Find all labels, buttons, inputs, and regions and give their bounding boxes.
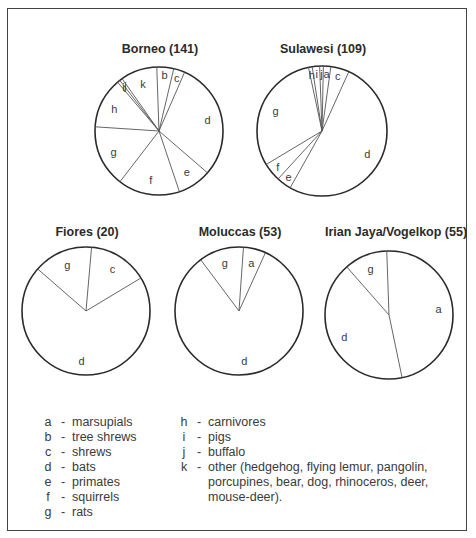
legend-item: i-pigs	[178, 430, 448, 445]
legend-left: a-marsupials b-tree shrews c-shrews d-ba…	[42, 415, 192, 520]
slice-label-e: e	[184, 166, 190, 178]
slice-label-k: k	[140, 78, 146, 90]
legend-key: a	[42, 415, 54, 430]
legend-label: tree shrews	[72, 430, 137, 445]
slice-label-d: d	[341, 331, 347, 343]
legend-item: g-rats	[42, 505, 192, 520]
pie-title: Moluccas (53)	[199, 225, 282, 239]
pie-title: Sulawesi (109)	[280, 42, 366, 56]
legend-right: h-carnivores i-pigs j-buffalo k-other (h…	[178, 415, 448, 505]
pie-title: Fiores (20)	[55, 225, 118, 239]
slice-label-d: d	[241, 355, 247, 367]
legend-label: shrews	[72, 445, 112, 460]
pie-fiores: Fiores (20) cdg	[22, 225, 150, 375]
slice-label-d: d	[364, 148, 370, 160]
pie-moluccas: Moluccas (53) adg	[175, 225, 303, 375]
legend-key: d	[42, 460, 54, 475]
legend-item: d-bats	[42, 460, 192, 475]
slice-label-c: c	[335, 70, 341, 82]
legend-item: c-shrews	[42, 445, 192, 460]
legend-key: i	[178, 430, 190, 445]
pie-borneo: Borneo (141) bcdefghijk	[95, 42, 223, 195]
slice-label-h: h	[111, 103, 117, 115]
slice-label-c: c	[174, 72, 180, 84]
slice-label-a: a	[248, 257, 255, 269]
legend-item: a-marsupials	[42, 415, 192, 430]
slice-label-d: d	[205, 114, 211, 126]
legend-label: squirrels	[72, 490, 119, 505]
legend-item: f-squirrels	[42, 490, 192, 505]
pie-title: Borneo (141)	[122, 42, 198, 56]
legend-label: carnivores	[208, 415, 266, 430]
slice-label-c: c	[110, 263, 116, 275]
slice-label-d: d	[79, 355, 85, 367]
legend-key: h	[178, 415, 190, 430]
legend-key: g	[42, 505, 54, 520]
legend-label: marsupials	[72, 415, 132, 430]
slice-label-g: g	[368, 263, 374, 275]
legend-item: b-tree shrews	[42, 430, 192, 445]
slice-label-b: b	[161, 69, 167, 81]
legend-key: e	[42, 475, 54, 490]
pie-sulawesi: Sulawesi (109) hijacdefg	[257, 42, 387, 196]
legend-label: pigs	[208, 430, 231, 445]
slice-label-g: g	[272, 105, 278, 117]
legend-item: h-carnivores	[178, 415, 448, 430]
legend-item: e-primates	[42, 475, 192, 490]
pie-irian-jaya-vogelkop: Irian Jaya/Vogelkop (55) adg	[325, 225, 467, 379]
slice-label-e: e	[285, 171, 291, 183]
legend-label: bats	[72, 460, 96, 475]
legend-key: k	[178, 460, 190, 505]
slice-label-g: g	[64, 259, 70, 271]
legend-key: c	[42, 445, 54, 460]
legend-label: buffalo	[208, 445, 245, 460]
legend-key: f	[42, 490, 54, 505]
slice-label-j: j	[319, 68, 322, 80]
legend-label: other (hedgehog, flying lemur, pangolin,…	[208, 460, 443, 505]
legend-label: primates	[72, 475, 120, 490]
legend-label: rats	[72, 505, 93, 520]
legend-key: j	[178, 445, 190, 460]
slice-label-a: a	[435, 303, 442, 315]
slice-label-g: g	[222, 257, 228, 269]
slice-label-i: i	[315, 68, 317, 80]
pie-title: Irian Jaya/Vogelkop (55)	[325, 225, 467, 239]
legend-item: j-buffalo	[178, 445, 448, 460]
slice-label-g: g	[110, 146, 116, 158]
legend-key: b	[42, 430, 54, 445]
legend-item: k-other (hedgehog, flying lemur, pangoli…	[178, 460, 448, 505]
